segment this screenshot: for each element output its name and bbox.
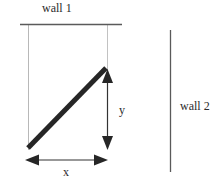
label-dimension-x: x xyxy=(63,166,69,178)
label-wall-2: wall 2 xyxy=(180,100,210,112)
label-wall-1: wall 1 xyxy=(42,2,72,14)
rod-segment xyxy=(28,68,106,148)
diagram-graphics xyxy=(0,0,221,183)
diagram-canvas: wall 1 wall 2 x y xyxy=(0,0,221,183)
dimension-x-arrow xyxy=(25,155,108,166)
label-dimension-y: y xyxy=(119,104,125,116)
dimension-y-arrow xyxy=(102,69,113,150)
